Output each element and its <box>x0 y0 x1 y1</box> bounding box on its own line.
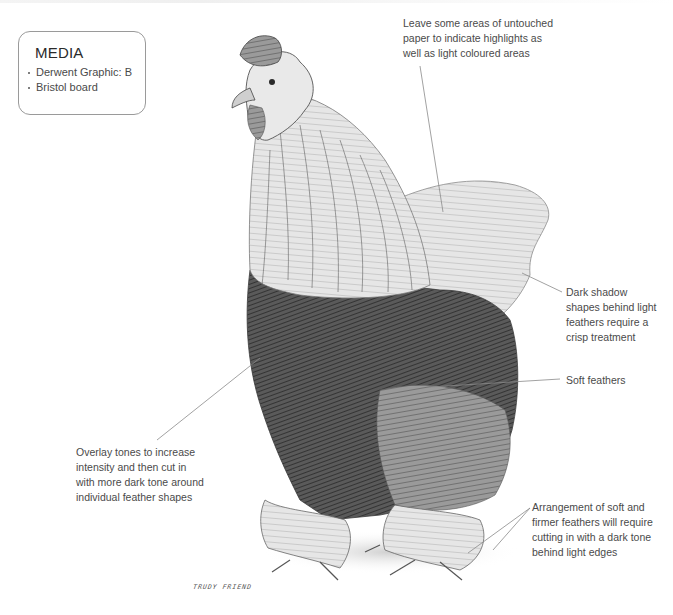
media-item: Bristol board <box>27 80 145 95</box>
illustration-page: MEDIA Derwent Graphic: B Bristol board L… <box>0 0 673 615</box>
leader-line-dark-shadow <box>522 273 562 292</box>
media-item: Derwent Graphic: B <box>27 65 145 80</box>
thigh-fluff <box>377 385 510 510</box>
annotation-dark-shadow: Dark shadow shapes behind light feathers… <box>566 285 673 345</box>
rooster-comb <box>240 36 282 66</box>
leader-line-arrangement-2 <box>493 508 530 550</box>
media-list: Derwent Graphic: B Bristol board <box>27 65 145 95</box>
artist-signature: TRUDY FRIEND <box>192 583 252 591</box>
leader-line-overlay <box>157 358 260 440</box>
annotation-arrangement: Arrangement of soft and firmer feathers … <box>532 500 673 560</box>
media-info-box: MEDIA Derwent Graphic: B Bristol board <box>18 31 146 115</box>
rooster-wattle <box>248 105 266 140</box>
rooster-eye <box>269 79 275 85</box>
annotation-highlights: Leave some areas of untouched paper to i… <box>403 16 593 61</box>
annotation-soft-feathers: Soft feathers <box>566 373 666 388</box>
media-title: MEDIA <box>35 44 145 62</box>
annotation-overlay-tones: Overlay tones to increase intensity and … <box>76 445 256 505</box>
